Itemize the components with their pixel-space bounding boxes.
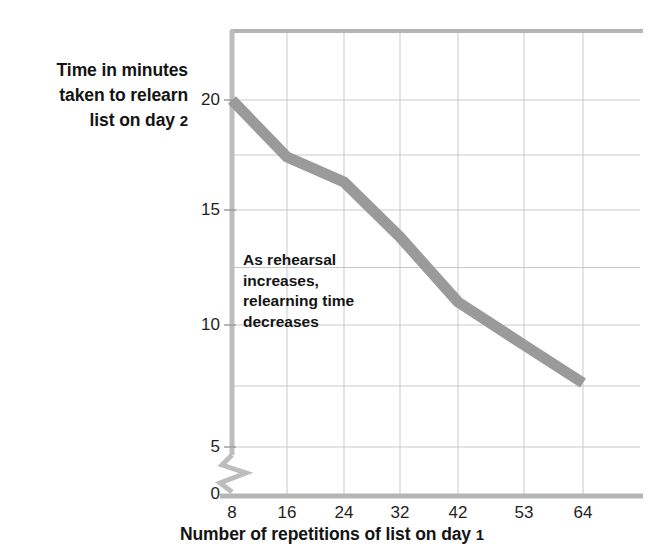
x-tick-label-32: 32: [370, 503, 430, 523]
x-tick-label-42: 42: [428, 503, 488, 523]
y-tick-label-0: 0: [176, 484, 220, 504]
y-tick-label-5: 5: [176, 437, 220, 457]
plot-annotation: As rehearsal increases, relearning time …: [243, 250, 354, 332]
x-axis-title-text: Number of repetitions of list on day: [180, 524, 476, 544]
x-tick-label-8: 8: [202, 503, 262, 523]
x-tick-label-53: 53: [494, 503, 554, 523]
y-tick-label-15: 15: [176, 200, 220, 220]
x-axis-title-day-number: 1: [476, 526, 484, 543]
y-tick-label-10: 10: [176, 315, 220, 335]
x-tick-label-24: 24: [314, 503, 374, 523]
x-tick-label-16: 16: [257, 503, 317, 523]
x-tick-label-64: 64: [553, 503, 613, 523]
y-tick-label-20: 20: [176, 90, 220, 110]
x-axis-title: Number of repetitions of list on day 1: [0, 524, 664, 545]
line-chart: Time in minutes taken to relearn list on…: [0, 0, 664, 551]
